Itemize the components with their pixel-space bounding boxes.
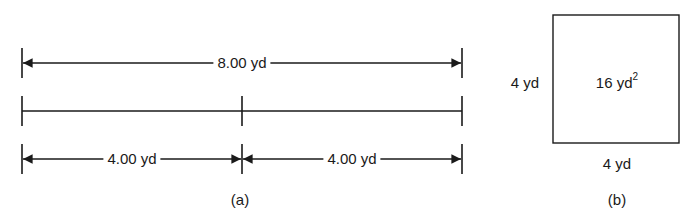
left-segment-label: 4.00 yd — [103, 150, 160, 168]
segment-line — [22, 96, 462, 126]
total-dimension-label: 8.00 yd — [213, 54, 270, 72]
area-exponent: 2 — [633, 71, 639, 82]
square-bottom-side-label: 4 yd — [603, 155, 631, 173]
right-segment-label: 4.00 yd — [323, 150, 380, 168]
area-value: 16 yd — [596, 74, 633, 91]
square-left-side-label: 4 yd — [511, 74, 539, 92]
square-area-label: 16 yd2 — [596, 74, 638, 92]
figure-b-caption: (b) — [608, 191, 626, 209]
diagram-lines — [0, 0, 692, 221]
figure-a-caption: (a) — [231, 191, 249, 209]
half-dimension-lines — [22, 144, 462, 174]
